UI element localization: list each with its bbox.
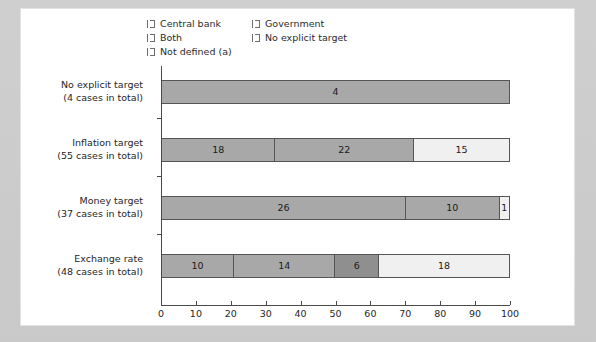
bar-segment[interactable]: 26 [162,197,406,219]
y-axis-tick [157,118,161,119]
x-axis-tick-label: 70 [399,308,411,319]
bar-segment[interactable]: 4 [162,81,509,103]
x-axis-tick-label: 0 [158,308,164,319]
x-axis: 0102030405060708090100 [161,305,510,329]
legend-swatch-icon [252,34,260,42]
bar-segment[interactable]: 22 [275,139,414,161]
bar-segment-value: 18 [212,145,224,155]
bar-segment-value: 18 [438,261,450,271]
category-label: Exchange rate(48 cases in total) [33,242,143,289]
category-name: Exchange rate [74,253,143,266]
bar-segment-value: 10 [192,261,204,271]
chart-panel: Central bankGovernmentBothNo explicit ta… [21,9,574,325]
x-axis-line [161,305,510,306]
category-sublabel: (48 cases in total) [57,266,143,279]
legend-item-central-bank[interactable]: Central bank [147,17,221,30]
x-axis-tick-label: 80 [434,308,446,319]
plot-area: No explicit target(4 cases in total)4Inf… [33,64,562,316]
bar-segment[interactable]: 15 [414,139,509,161]
y-axis-tick [157,176,161,177]
stacked-bar[interactable]: 4 [161,80,510,104]
bar-track: 26101 [161,184,522,231]
category-sublabel: (4 cases in total) [63,92,143,105]
legend-label: Government [265,19,324,29]
x-axis-tick [510,301,511,305]
x-axis-tick-label: 40 [295,308,307,319]
stacked-bar[interactable]: 26101 [161,196,510,220]
legend-item-both[interactable]: Both [147,31,182,44]
bar-segment[interactable]: 18 [162,139,275,161]
chart-category-row: No explicit target(4 cases in total)4 [33,68,562,115]
x-axis-tick [336,301,337,305]
x-axis-tick-label: 100 [501,308,519,319]
x-axis-tick [440,301,441,305]
legend-item-not-defined-a[interactable]: Not defined (a) [147,45,232,58]
category-name: Inflation target [72,137,143,150]
legend-swatch-fill [253,34,255,55]
chart-category-row: Exchange rate(48 cases in total)1014618 [33,242,562,289]
chart-category-row: Inflation target(55 cases in total)18221… [33,126,562,173]
bar-segment[interactable]: 6 [335,255,378,277]
y-axis-tick [157,234,161,235]
x-axis-tick [301,301,302,305]
category-name: Money target [80,195,143,208]
chart-category-row: Money target(37 cases in total)26101 [33,184,562,231]
legend-item-no-explicit-target[interactable]: No explicit target [252,31,347,44]
x-axis-tick [161,301,162,305]
legend-label: Both [160,33,182,43]
x-axis-tick [370,301,371,305]
legend-label: Not defined (a) [160,47,232,57]
bar-segment-value: 15 [456,145,468,155]
y-axis-line [161,66,162,306]
legend-swatch-icon [147,20,155,28]
legend-label: No explicit target [265,33,347,43]
x-axis-tick-label: 20 [225,308,237,319]
bar-segment-value: 26 [277,203,289,213]
legend-item-government[interactable]: Government [252,17,324,30]
bar-segment[interactable]: 10 [406,197,500,219]
x-axis-tick-label: 90 [469,308,481,319]
legend-label: Central bank [160,19,221,29]
x-axis-tick-label: 60 [364,308,376,319]
chart-legend: Central bankGovernmentBothNo explicit ta… [127,14,457,58]
bar-segment[interactable]: 10 [162,255,234,277]
category-label: Inflation target(55 cases in total) [33,126,143,173]
x-axis-tick-label: 10 [190,308,202,319]
bar-segment-value: 4 [332,87,338,97]
bar-segment-value: 1 [501,203,507,213]
legend-swatch-icon [147,48,155,56]
category-label: No explicit target(4 cases in total) [33,68,143,115]
category-label: Money target(37 cases in total) [33,184,143,231]
bar-track: 182215 [161,126,522,173]
bar-segment-value: 10 [446,203,458,213]
image-frame: Central bankGovernmentBothNo explicit ta… [0,0,596,342]
x-axis-tick [266,301,267,305]
bar-segment[interactable]: 1 [500,197,509,219]
legend-swatch-icon [147,34,155,42]
x-axis-tick-label: 30 [260,308,272,319]
category-name: No explicit target [61,79,143,92]
stacked-bar[interactable]: 1014618 [161,254,510,278]
x-axis-tick-label: 50 [329,308,341,319]
bar-track: 1014618 [161,242,522,289]
bar-segment-value: 22 [338,145,350,155]
legend-swatch-icon [252,20,260,28]
bar-segment[interactable]: 14 [234,255,335,277]
stacked-bar[interactable]: 182215 [161,138,510,162]
category-sublabel: (55 cases in total) [57,150,143,163]
x-axis-tick [475,301,476,305]
bar-track: 4 [161,68,522,115]
bar-segment-value: 6 [354,261,360,271]
x-axis-tick [405,301,406,305]
bar-segment[interactable]: 18 [379,255,509,277]
bar-segment-value: 14 [278,261,290,271]
category-sublabel: (37 cases in total) [57,208,143,221]
x-axis-tick [196,301,197,305]
x-axis-tick [231,301,232,305]
